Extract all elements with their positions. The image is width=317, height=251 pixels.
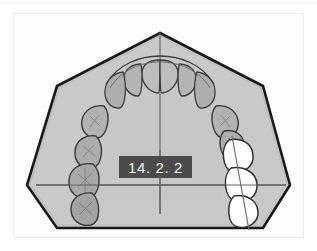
measurement-label-badge: 14. 2. 2 <box>119 156 192 178</box>
dental-arch-diagram: 14. 2. 2 <box>0 0 317 251</box>
figure-root: 14. 2. 2 <box>0 0 317 251</box>
dental-arch-svg <box>0 0 317 251</box>
measurement-label-text: 14. 2. 2 <box>128 160 183 175</box>
